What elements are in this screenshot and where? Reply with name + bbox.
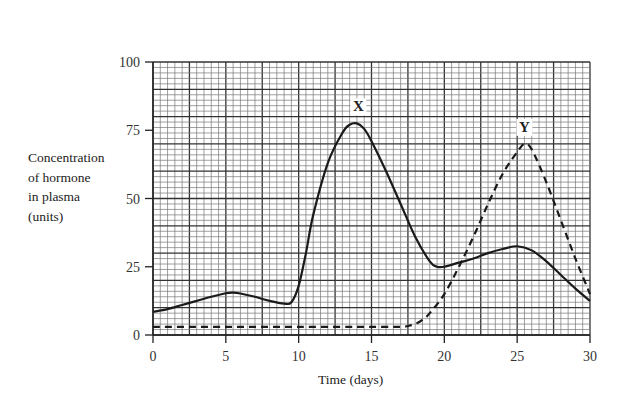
y-axis-label-line: of hormone — [28, 168, 104, 188]
x-tick-label: 10 — [292, 349, 306, 364]
y-tick-label: 75 — [126, 123, 140, 138]
x-tick-label: 15 — [365, 349, 379, 364]
y-axis-label-line: (units) — [28, 207, 104, 227]
x-tick-label: 30 — [583, 349, 597, 364]
y-axis-label: Concentration of hormone in plasma (unit… — [28, 148, 104, 226]
x-tick-label: 20 — [437, 349, 451, 364]
y-tick-label: 0 — [133, 328, 140, 343]
x-tick-label: 0 — [150, 349, 157, 364]
peak-label-x: X — [353, 98, 364, 114]
x-axis-label: Time (days) — [318, 372, 383, 388]
y-axis-label-line: in plasma — [28, 187, 104, 207]
y-tick-label: 50 — [126, 192, 140, 207]
x-tick-label: 25 — [510, 349, 524, 364]
y-tick-label: 25 — [126, 260, 140, 275]
peak-label-y: Y — [519, 119, 530, 135]
y-axis-label-line: Concentration — [28, 148, 104, 168]
y-tick-label: 100 — [119, 55, 140, 70]
x-tick-label: 5 — [222, 349, 229, 364]
